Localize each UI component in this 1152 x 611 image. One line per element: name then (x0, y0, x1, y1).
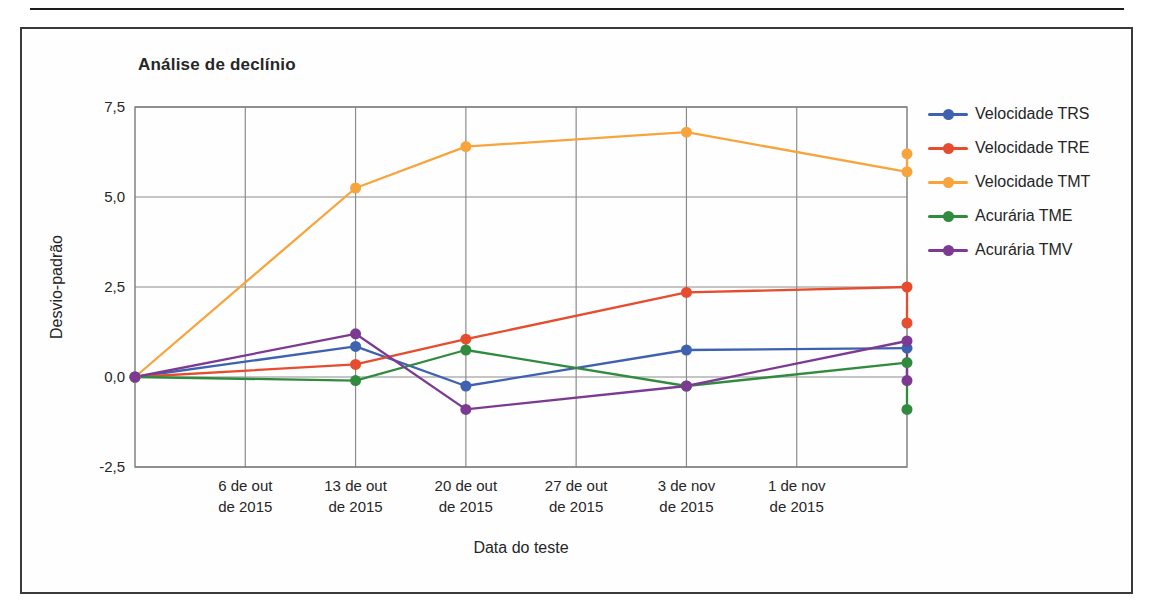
y-axis-title: Desvio-padrão (48, 235, 66, 339)
x-axis-title: Data do teste (135, 539, 907, 557)
y-tick-label: -2,5 (73, 458, 125, 476)
x-tick-label: 6 de out de 2015 (189, 475, 301, 517)
data-point (902, 282, 913, 293)
scanned-figure-page: Análise de declínio Desvio-padrão 7,55,0… (0, 0, 1152, 611)
legend-line-marker-icon (928, 244, 968, 256)
legend-line-marker-icon (928, 108, 968, 120)
y-tick-label: 7,5 (73, 98, 125, 116)
data-point (460, 334, 471, 345)
y-tick-label: 5,0 (73, 188, 125, 206)
x-tick-label: 27 de out de 2015 (520, 475, 632, 517)
legend-label: Acurária TMV (975, 241, 1073, 259)
series-line (135, 346, 907, 386)
data-point (460, 141, 471, 152)
data-point (902, 166, 913, 177)
series-line (135, 132, 907, 377)
legend-item: Acurária TMV (928, 237, 1090, 263)
page-top-rule (30, 8, 1124, 10)
data-point (350, 183, 361, 194)
legend-label: Velocidade TRE (975, 139, 1089, 157)
data-point (681, 127, 692, 138)
data-point (350, 359, 361, 370)
legend-item: Acurária TME (928, 203, 1090, 229)
y-tick-label: 2,5 (73, 278, 125, 296)
legend-line-marker-icon (928, 142, 968, 154)
legend-label: Velocidade TMT (975, 173, 1090, 191)
data-point (902, 336, 913, 347)
data-point (681, 345, 692, 356)
legend-line-marker-icon (928, 176, 968, 188)
chart-title: Análise de declínio (138, 55, 296, 75)
data-point (902, 375, 913, 386)
legend-item: Velocidade TRS (928, 101, 1090, 127)
data-point (681, 287, 692, 298)
x-tick-label: 20 de out de 2015 (410, 475, 522, 517)
data-point (681, 381, 692, 392)
chart-legend: Velocidade TRSVelocidade TREVelocidade T… (928, 101, 1090, 263)
x-tick-label: 3 de nov de 2015 (630, 475, 742, 517)
data-point (460, 404, 471, 415)
legend-line-marker-icon (928, 210, 968, 222)
x-tick-label: 13 de out de 2015 (300, 475, 412, 517)
data-point (350, 341, 361, 352)
data-point (460, 381, 471, 392)
data-point (902, 148, 913, 159)
data-point (350, 328, 361, 339)
data-point (130, 372, 141, 383)
legend-item: Velocidade TRE (928, 135, 1090, 161)
legend-item: Velocidade TMT (928, 169, 1090, 195)
data-point (902, 404, 913, 415)
data-point (460, 345, 471, 356)
series-line (135, 334, 907, 410)
legend-label: Acurária TME (975, 207, 1073, 225)
data-point (902, 318, 913, 329)
data-point (902, 357, 913, 368)
legend-label: Velocidade TRS (975, 105, 1089, 123)
x-tick-label: 1 de nov de 2015 (741, 475, 853, 517)
y-tick-label: 0,0 (73, 368, 125, 386)
data-point (350, 375, 361, 386)
line-chart-plot-area (135, 107, 907, 467)
